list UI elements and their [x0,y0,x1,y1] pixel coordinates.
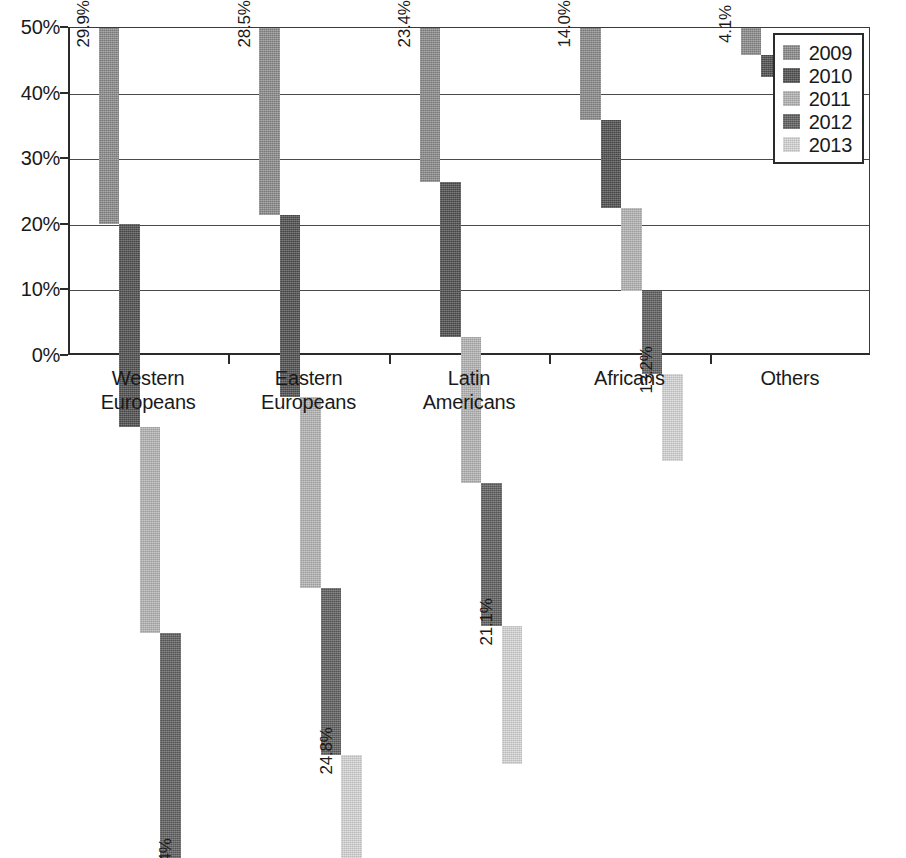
bar-group: 28.5%24.8% [230,28,390,353]
bar-value-label: 24.8% [335,728,352,775]
x-axis-group-tick [389,355,391,364]
x-axis-group-tick [710,355,712,364]
bar [621,208,642,291]
bar-value-label: 14.0% [573,0,590,47]
bar [440,182,461,337]
y-axis-tick-mark [60,223,68,225]
y-axis-tick-label: 30% [0,148,60,168]
x-axis-category-label: WesternEuropeans [68,366,228,414]
y-axis-tick-mark [60,354,68,356]
y-axis-tick-label: 50% [0,17,60,37]
y-axis-tick-label: 10% [0,279,60,299]
legend: 20092010201120122013 [773,33,864,164]
legend-item: 2013 [783,133,852,156]
legend-item: 2010 [783,64,852,87]
x-axis-category-line: Latin [389,366,549,390]
bar-value-label-text: 29.9% [75,0,92,47]
x-axis-category-line: Africans [549,366,709,390]
bar: 23.4% [420,28,441,182]
legend-item: 2009 [783,41,852,64]
legend-swatch [783,137,800,152]
bar: 29.9% [99,28,120,224]
legend-item-label: 2009 [809,43,852,63]
x-axis-category-label: Africans [549,366,709,390]
x-axis-group-tick [549,355,551,364]
bar-value-label: 28.5% [253,0,270,47]
bar: 24.8% [341,755,362,858]
bar-value-label: 21.1% [495,598,512,645]
legend-swatch [783,91,800,106]
x-axis-category-line: Europeans [228,390,388,414]
x-axis-category-label: LatinAmericans [389,366,549,414]
x-axis-category-line: Others [710,366,870,390]
legend-item-label: 2012 [809,112,852,132]
bar-group: 29.9%37.4% [70,28,230,353]
y-axis-tick-label: 40% [0,83,60,103]
bar: 14.0% [580,28,601,120]
bar [140,427,161,633]
legend-item: 2011 [783,87,852,110]
bar-value-label-text: 28.5% [236,0,253,47]
bar: 28.5% [259,28,280,215]
plot-area: 29.9%37.4%28.5%24.8%23.4%21.1%14.0%13.2%… [68,27,870,355]
y-axis-tick-mark [60,26,68,28]
legend-item-label: 2011 [809,89,851,109]
x-axis-category-line: Americans [389,390,549,414]
bar [601,120,622,208]
bar-value-label: 29.9% [92,0,109,47]
bar-value-label-text: 4.1% [717,5,734,43]
bar [160,633,181,858]
y-axis-tick-label: 20% [0,214,60,234]
legend-swatch [783,68,800,83]
bar-value-label-text: 23.4% [396,0,413,47]
bar-group: 23.4%21.1% [391,28,551,353]
bar-value-label-text: 37.4% [157,838,174,858]
bar-value-label: 4.1% [734,5,751,43]
legend-swatch [783,114,800,129]
x-axis-category-line: Europeans [68,390,228,414]
bar-value-label: 37.4% [174,838,191,858]
x-axis-category-label: Others [710,366,870,390]
legend-item-label: 2013 [809,135,852,155]
y-axis-tick-mark [60,288,68,290]
bar-group: 14.0%13.2% [551,28,711,353]
x-axis-category-label: EasternEuropeans [228,366,388,414]
x-axis-category-line: Western [68,366,228,390]
y-axis-tick-mark [60,157,68,159]
y-axis-tick-mark [60,92,68,94]
bar [300,397,321,589]
legend-swatch [783,45,800,60]
bar-value-label-text: 21.1% [478,598,495,645]
bar: 4.1% [741,28,762,55]
x-axis-category-line: Eastern [228,366,388,390]
bar-value-label-text: 14.0% [556,0,573,47]
legend-item-label: 2010 [809,66,852,86]
bar-value-label: 23.4% [413,0,430,47]
legend-item: 2012 [783,110,852,133]
y-axis-tick-label: 0% [0,345,60,365]
bar: 21.1% [502,626,523,764]
bar-value-label-text: 24.8% [318,728,335,775]
x-axis-group-tick [228,355,230,364]
